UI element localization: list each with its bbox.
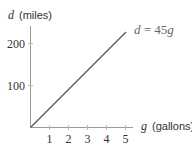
x-axis-unit: (gallons) bbox=[152, 120, 192, 132]
y-axis-label: d (miles) bbox=[8, 8, 52, 22]
x-tick-label-1: 1 bbox=[47, 132, 53, 146]
x-axis-label: g (gallons) bbox=[141, 119, 192, 133]
line-annotation: d = 45g bbox=[134, 22, 174, 37]
y-axis-unit: (miles) bbox=[19, 9, 52, 21]
y-tick-label-200: 200 bbox=[7, 37, 25, 51]
y-tick-label-100: 100 bbox=[7, 79, 25, 93]
annotation-eq: = 45 bbox=[141, 22, 168, 37]
annotation-var: g bbox=[167, 22, 174, 37]
chart: 200 100 1 2 3 4 5 d (miles) g (gallons) … bbox=[0, 0, 192, 148]
y-axis-var: d bbox=[8, 8, 15, 22]
x-tick-label-2: 2 bbox=[66, 132, 72, 146]
x-axis-var: g bbox=[141, 119, 147, 133]
x-tick-label-5: 5 bbox=[123, 132, 129, 146]
x-tick-label-4: 4 bbox=[104, 132, 110, 146]
x-tick-label-3: 3 bbox=[85, 132, 91, 146]
data-line-d-45g bbox=[31, 32, 127, 128]
